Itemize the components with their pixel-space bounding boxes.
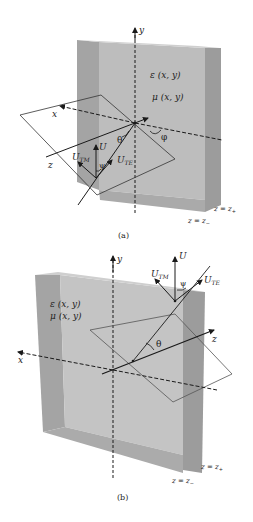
- caption-a: (a): [118, 231, 129, 240]
- psi-label-a: ψ: [99, 161, 105, 170]
- y-axis-label-a: y: [138, 25, 145, 35]
- vector-u-label-a: U: [99, 142, 107, 152]
- theta-label-a: θ: [117, 135, 122, 145]
- psi-label-b: ψ: [180, 279, 186, 288]
- vector-u-label-b: U: [179, 251, 187, 261]
- z-plus-label-a: z = z+: [213, 205, 236, 214]
- z-minus-label-b: z = z−: [171, 477, 194, 486]
- epsilon-label-b: ε (x, y): [50, 299, 81, 309]
- theta-label-b: θ: [156, 339, 161, 349]
- mu-label-b: μ (x, y): [50, 311, 82, 321]
- epsilon-label-a: ε (x, y): [150, 70, 181, 80]
- z-minus-label-a: z = z−: [187, 217, 210, 226]
- phi-label-a: φ: [161, 132, 167, 142]
- vector-ute-label-b: UTE: [204, 275, 221, 286]
- z-axis-label-a: z: [47, 160, 53, 170]
- x-axis-label-a: x: [52, 109, 57, 119]
- panel-a: y x z U UTM UTE θ ψ φ ε (x, y) μ (x, y) …: [20, 25, 236, 240]
- z-plus-label-b: z = z+: [200, 463, 223, 472]
- x-axis-label-b: x: [18, 355, 23, 365]
- panel-b: y x z U UTM UTE ψ θ ε (x, y) μ (x, y) z …: [18, 251, 232, 502]
- mu-label-a: μ (x, y): [152, 92, 184, 102]
- caption-b: (b): [117, 493, 128, 502]
- vector-utm-label-b: UTM: [151, 269, 170, 280]
- diagram-canvas: y x z U UTM UTE θ ψ φ ε (x, y) μ (x, y) …: [0, 0, 253, 522]
- y-axis-label-b: y: [116, 254, 123, 264]
- z-axis-label-b: z: [211, 334, 217, 344]
